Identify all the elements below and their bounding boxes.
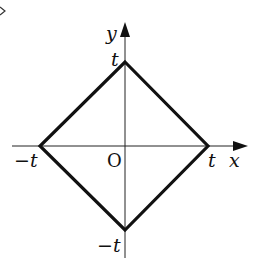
- y-axis-arrow-icon: [120, 22, 130, 37]
- tick-x-negative: −t: [14, 149, 38, 171]
- origin-label: O: [107, 150, 122, 171]
- y-axis-label: y: [105, 22, 117, 44]
- diagram-canvas: y t −t O t x −t: [0, 0, 261, 271]
- tick-y-negative: −t: [97, 234, 121, 256]
- tick-x-positive: t: [208, 149, 216, 171]
- coordinate-diagram: y t −t O t x −t: [0, 0, 261, 271]
- tick-y-positive: t: [111, 48, 119, 70]
- x-axis-label: x: [229, 149, 240, 171]
- corner-fragment-glyph: [0, 7, 5, 15]
